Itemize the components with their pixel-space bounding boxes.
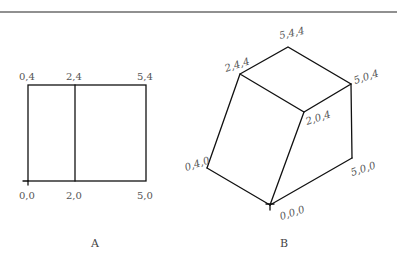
- label-5-0: 5,0: [137, 190, 153, 201]
- rectangle-outline: [28, 85, 146, 181]
- label-2-0-4: 2,0,4: [303, 109, 332, 128]
- caption-a: A: [90, 237, 100, 250]
- edge-040-000: [207, 168, 270, 205]
- label-5-0-4: 5,0,4: [352, 68, 380, 86]
- edge-244-040: [207, 74, 240, 168]
- label-2-4: 2,4: [66, 71, 82, 82]
- label-0-4: 0,4: [19, 71, 35, 82]
- edge-500-000: [270, 158, 352, 205]
- panel-a: 0,4 2,4 5,4 0,0 2,0 5,0 A: [19, 71, 153, 250]
- label-2-4-4: 2,4,4: [222, 56, 251, 75]
- label-0-0-0: 0,0,0: [278, 203, 306, 222]
- label-0-0: 0,0: [19, 190, 35, 201]
- label-5-0-0: 5,0,0: [349, 159, 377, 178]
- caption-b: B: [280, 237, 288, 250]
- diagram-canvas: 0,4 2,4 5,4 0,0 2,0 5,0 A 5,4,4 2,4,4 5,…: [0, 0, 399, 259]
- panel-b: 5,4,4 2,4,4 5,0,4 2,0,4 0,4,0 5,0,0 0,0,…: [183, 25, 380, 250]
- label-2-0: 2,0: [66, 190, 82, 201]
- edge-504-500: [351, 84, 352, 158]
- top-face: [240, 47, 351, 112]
- edge-204-000: [270, 112, 304, 205]
- label-5-4: 5,4: [137, 71, 153, 82]
- label-0-4-0: 0,4,0: [183, 154, 211, 173]
- label-5-4-4: 5,4,4: [278, 25, 305, 41]
